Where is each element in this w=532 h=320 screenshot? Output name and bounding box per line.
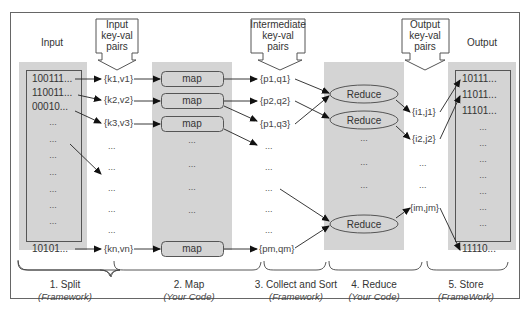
map-column: [152, 62, 232, 250]
svg-text:map: map: [182, 73, 202, 84]
stage-store-sub: (FrameWork): [438, 291, 494, 302]
svg-text:...: ...: [49, 134, 57, 144]
kv-pair: {pm,qm}: [259, 243, 294, 254]
svg-text:pairs: pairs: [267, 41, 289, 52]
svg-text:pairs: pairs: [106, 41, 128, 52]
reduce-node: Reduce: [330, 85, 398, 103]
svg-text:...: ...: [49, 167, 57, 177]
stage-split-label: 1. Split: [50, 279, 81, 290]
svg-text:Output: Output: [410, 19, 440, 30]
svg-text:Reduce: Reduce: [347, 115, 382, 126]
svg-text:...: ...: [108, 183, 116, 193]
svg-text:...: ...: [419, 158, 427, 168]
stage-reduce-sub: (Your Code): [348, 291, 399, 302]
svg-text:...: ...: [49, 184, 57, 194]
svg-text:...: ...: [188, 205, 196, 215]
svg-text:...: ...: [108, 162, 116, 172]
svg-text:map: map: [182, 95, 202, 106]
svg-text:...: ...: [360, 180, 368, 190]
kv-pair: {p2,q2}: [260, 95, 290, 106]
svg-text:Reduce: Reduce: [347, 89, 382, 100]
input-record: 100111...: [32, 73, 72, 84]
svg-text:...: ...: [360, 157, 368, 167]
svg-text:...: ...: [479, 122, 487, 132]
svg-text:...: ...: [265, 162, 273, 172]
input-kv-callout: Input key-val pairs: [96, 19, 138, 70]
mapreduce-diagram: Input Output Input key-val pairs Interme…: [0, 0, 532, 320]
svg-text:...: ...: [265, 225, 273, 235]
svg-text:...: ...: [479, 154, 487, 164]
stage-collect-label: 3. Collect and Sort: [255, 279, 337, 290]
svg-text:key-val: key-val: [262, 30, 294, 41]
input-record: 10101...: [32, 243, 68, 254]
output-record: 11011...: [462, 89, 497, 100]
svg-text:...: ...: [108, 225, 116, 235]
reduce-node: Reduce: [330, 111, 398, 129]
stage-collect-sub: (Framework): [269, 291, 323, 302]
output-record: 11110...: [462, 243, 496, 254]
kv-pair: {i2,j2}: [412, 133, 436, 144]
output-heading: Output: [467, 37, 497, 48]
svg-text:...: ...: [265, 141, 273, 151]
kv-pair: {k1,v1}: [104, 73, 133, 84]
svg-text:...: ...: [479, 138, 487, 148]
map-node: map: [162, 72, 224, 87]
svg-text:Reduce: Reduce: [347, 219, 382, 230]
kv-pair: {kn,vn}: [104, 243, 133, 254]
kv-pair: {im,jm}: [410, 202, 439, 213]
svg-text:map: map: [182, 243, 202, 254]
output-record: 11101...: [462, 105, 497, 116]
input-record: 110011...: [32, 87, 72, 98]
svg-text:...: ...: [265, 183, 273, 193]
svg-text:...: ...: [108, 141, 116, 151]
svg-text:...: ...: [188, 159, 196, 169]
svg-text:...: ...: [49, 200, 57, 210]
svg-text:...: ...: [419, 180, 427, 190]
input-heading: Input: [41, 37, 63, 48]
svg-text:...: ...: [108, 204, 116, 214]
svg-text:map: map: [182, 118, 202, 129]
input-record: 00010...: [32, 101, 68, 112]
kv-pair: {p1,q1}: [260, 73, 290, 84]
kv-pair: {k3,v3}: [104, 117, 133, 128]
kv-pair: {p1,q3}: [260, 118, 290, 129]
output-record: 10111...: [462, 73, 497, 84]
svg-text:...: ...: [479, 218, 487, 228]
map-node: map: [162, 117, 224, 132]
svg-text:...: ...: [479, 170, 487, 180]
svg-text:...: ...: [188, 182, 196, 192]
svg-text:...: ...: [360, 133, 368, 143]
svg-text:...: ...: [49, 216, 57, 226]
stage-map-label: 2. Map: [174, 279, 205, 290]
svg-text:...: ...: [265, 204, 273, 214]
kv-pair: {i1,j1}: [412, 106, 436, 117]
svg-text:Input: Input: [106, 19, 128, 30]
stage-store-label: 5. Store: [448, 279, 483, 290]
svg-text:pairs: pairs: [414, 41, 436, 52]
map-node: map: [162, 242, 224, 257]
svg-text:...: ...: [479, 202, 487, 212]
svg-text:...: ...: [49, 117, 57, 127]
map-node: map: [162, 94, 224, 109]
svg-text:Intermediate: Intermediate: [250, 19, 306, 30]
svg-text:...: ...: [479, 186, 487, 196]
svg-text:key-val: key-val: [409, 30, 441, 41]
stage-split-sub: (Framework): [38, 291, 92, 302]
svg-text:key-val: key-val: [101, 30, 133, 41]
kv-pair: {k2,v2}: [104, 94, 133, 105]
stage-map-sub: (Your Code): [163, 291, 214, 302]
stage-reduce-label: 4. Reduce: [351, 279, 397, 290]
reduce-node: Reduce: [330, 215, 398, 233]
svg-text:...: ...: [49, 150, 57, 160]
svg-text:...: ...: [188, 135, 196, 145]
